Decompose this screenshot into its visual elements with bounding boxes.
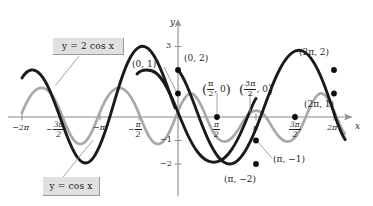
fraction-denominator: 2 xyxy=(247,90,254,99)
leader-pi-neg1 xyxy=(257,141,273,159)
fraction-denominator: 2 xyxy=(291,130,298,138)
xtick-label-neg-3pi-over-2: − 3π 2 xyxy=(46,121,64,138)
leader-cos-box xyxy=(63,140,93,177)
annotation-2pi-1: (2π, 1) xyxy=(304,100,334,109)
fraction-pi-2: π 2 xyxy=(207,80,214,98)
figure-container: y x −2π − 3π 2 −π − π 2 π 2 π 3π xyxy=(0,0,373,206)
xtick-label-2pi: 2π xyxy=(327,124,337,132)
fraction-3pi-2: 3π 2 xyxy=(53,121,65,138)
fraction-numerator: π xyxy=(135,121,142,130)
fraction-numerator: π xyxy=(213,121,220,130)
annotation-pi-neg-2: (π, −2) xyxy=(224,175,256,184)
minus-sign: − xyxy=(46,126,53,134)
annotation-0-1: (0, 1) xyxy=(132,60,156,69)
xtick-label-pi-over-2: π 2 xyxy=(213,121,220,138)
legend-box-2cos-x[interactable]: y = 2 cos x xyxy=(53,38,124,55)
x-axis-label: x xyxy=(355,122,360,131)
annotation-0-2: (0, 2) xyxy=(184,54,208,63)
legend-box-cos-x[interactable]: y = cos x xyxy=(43,177,100,196)
fraction-denominator: 2 xyxy=(55,130,62,138)
fraction-pi-2: π 2 xyxy=(135,121,142,138)
fraction-denominator: 2 xyxy=(213,130,220,138)
dot-0-2 xyxy=(175,67,181,73)
annotation-3pi-over-2-zero: ( 3π 2 , 0 ) xyxy=(239,80,273,98)
ytick-label-neg-1: −1 xyxy=(160,136,172,144)
annotation-pi-neg-1: (π, −1) xyxy=(273,155,305,164)
legend-label-2cos-x: y = 2 cos x xyxy=(62,41,114,51)
fraction-denominator: 2 xyxy=(135,130,142,138)
xtick-label-neg-2pi: −2π xyxy=(12,124,29,132)
legend-label-cos-x: y = cos x xyxy=(49,181,92,191)
xtick-label-pi: π xyxy=(253,124,258,132)
fraction-pi-2: π 2 xyxy=(213,121,220,138)
dot-2pi-2 xyxy=(331,67,337,73)
minus-sign: − xyxy=(128,126,135,134)
dot-0-1 xyxy=(175,91,181,97)
xtick-label-neg-pi: −π xyxy=(93,124,105,132)
ytick-label-neg-2: −2 xyxy=(160,160,172,168)
leader-2cos-box xyxy=(56,56,80,86)
dot-2pi-1 xyxy=(331,91,337,97)
y-axis-label: y xyxy=(170,18,175,27)
comma-zero: , 0 xyxy=(256,85,267,94)
dot-pi-neg2 xyxy=(253,161,259,167)
annotation-pi-over-2-zero: ( π 2 , 0 ) xyxy=(202,80,231,98)
comma-zero: , 0 xyxy=(214,85,225,94)
dot-pi-neg1 xyxy=(253,138,259,144)
fraction-denominator: 2 xyxy=(207,90,214,99)
xtick-label-3pi-over-2: 3π 2 xyxy=(289,121,301,138)
annotation-2pi-2: (2π, 2) xyxy=(299,48,329,57)
close-paren: ) xyxy=(268,83,273,96)
fraction-numerator: 3π xyxy=(289,121,301,130)
close-paren: ) xyxy=(226,83,231,96)
fraction-numerator: 3π xyxy=(53,121,65,130)
xtick-label-neg-pi-over-2: − π 2 xyxy=(128,121,142,138)
fraction-3pi-2: 3π 2 xyxy=(244,80,256,98)
fraction-3pi-2: 3π 2 xyxy=(289,121,301,138)
ytick-label-3: 3 xyxy=(166,42,171,50)
